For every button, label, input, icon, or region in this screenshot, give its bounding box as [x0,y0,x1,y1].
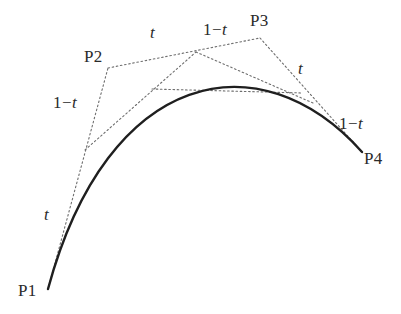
control-point-label-p3: P3 [250,12,268,29]
construction-line-level1-a-b [85,52,196,150]
construction-lines-group [48,38,362,289]
control-point-label-p2: P2 [84,48,102,65]
ratio-label-t-right: t [298,60,303,77]
ratio-one-glyph: 1 [203,20,212,39]
construction-line-level2-d-e [152,89,303,93]
ratio-label-one-minus-t-left: 1−t [53,94,77,111]
control-point-label-p1: P1 [18,282,36,299]
ratio-label-t-glyph: t [358,114,363,133]
ratio-one-glyph: 1 [339,114,348,133]
ratio-label-t-glyph: t [150,23,155,42]
construction-line-hull-p2-p3 [108,38,260,68]
ratio-minus-glyph: − [212,20,223,39]
ratio-minus-glyph: − [62,93,73,112]
bezier-figure: P1 P2 P3 P4 t 1−t t 1−t t 1−t [0,0,401,314]
ratio-label-t-glyph: t [44,205,49,224]
ratio-label-t-glyph: t [72,93,77,112]
ratio-label-t-glyph: t [298,59,303,78]
bezier-figure-canvas [0,0,401,314]
ratio-label-t-lower-left: t [44,206,49,223]
ratio-minus-glyph: − [348,114,359,133]
construction-line-level1-b-c [196,52,313,103]
ratio-label-t-upper-left: t [150,24,155,41]
control-point-label-p4: P4 [364,150,382,167]
ratio-label-one-minus-t-right: 1−t [339,115,363,132]
ratio-one-glyph: 1 [53,93,62,112]
ratio-label-t-glyph: t [222,20,227,39]
ratio-label-one-minus-t-top: 1−t [203,21,227,38]
